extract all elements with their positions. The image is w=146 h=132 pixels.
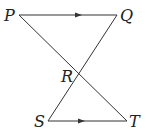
label-p: P [3,6,15,25]
segment-qs [48,15,117,121]
parallel-arrow-icon [75,13,82,18]
parallel-arrow-icon [78,119,85,124]
label-t: T [129,112,141,131]
label-q: Q [120,6,133,25]
label-s: S [34,112,45,131]
label-r: R [60,67,73,86]
diagram-canvas: P Q R S T [0,0,146,132]
